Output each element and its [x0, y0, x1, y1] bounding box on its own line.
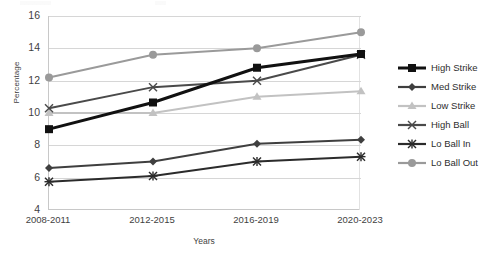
- legend-marker-lo-ball-out-icon: [398, 156, 426, 170]
- legend-item-low-strike[interactable]: Low Strike: [398, 96, 493, 115]
- point-high-strike: [45, 125, 53, 133]
- x-tick-2016-2019: 2016-2019: [211, 214, 301, 225]
- point-high-strike: [149, 98, 157, 106]
- legend-marker-low-strike-icon: [398, 99, 426, 113]
- x-tick-2008-2011: 2008-2011: [3, 214, 93, 225]
- legend-marker-lo-ball-in-icon: [398, 137, 426, 151]
- legend-item-lo-ball-in[interactable]: Lo Ball In: [398, 134, 493, 153]
- point-lo-ball-out: [357, 28, 365, 36]
- point-med-strike: [253, 140, 261, 148]
- cropped-title-artifact: [20, 1, 280, 5]
- line-high-ball: [49, 55, 361, 108]
- point-high-strike: [357, 50, 365, 58]
- point-med-strike: [45, 164, 53, 172]
- y-tick-6: 6: [14, 171, 40, 183]
- line-high-strike: [49, 54, 361, 129]
- point-lo-ball-out: [45, 73, 53, 81]
- point-lo-ball-out: [253, 44, 261, 52]
- line-lo-ball-out: [49, 32, 361, 77]
- line-lo-ball-in: [49, 157, 361, 182]
- y-tick-14: 14: [14, 41, 40, 53]
- y-tick-8: 8: [14, 138, 40, 150]
- legend-item-lo-ball-out[interactable]: Lo Ball Out: [398, 153, 493, 172]
- legend: High StrikeMed StrikeLow StrikeHigh Ball…: [398, 58, 493, 172]
- point-med-strike: [149, 158, 157, 166]
- legend-label-low-strike: Low Strike: [431, 100, 475, 111]
- legend-item-med-strike[interactable]: Med Strike: [398, 77, 493, 96]
- legend-marker-high-strike-icon: [398, 61, 426, 75]
- point-lo-ball-out: [149, 51, 157, 59]
- legend-label-lo-ball-in: Lo Ball In: [431, 138, 471, 149]
- legend-label-lo-ball-out: Lo Ball Out: [431, 157, 478, 168]
- point-high-strike: [253, 64, 261, 72]
- y-tick-12: 12: [14, 74, 40, 86]
- line-med-strike: [49, 140, 361, 168]
- x-tick-2020-2023: 2020-2023: [315, 214, 405, 225]
- line-chart: Percentage 46810121416 2008-20112012-201…: [0, 0, 493, 255]
- legend-label-high-strike: High Strike: [431, 62, 477, 73]
- y-tick-10: 10: [14, 106, 40, 118]
- line-low-strike: [49, 91, 361, 113]
- point-med-strike: [357, 136, 365, 144]
- legend-marker-high-ball-icon: [398, 118, 426, 132]
- y-tick-16: 16: [14, 9, 40, 21]
- x-axis-title: Years: [48, 236, 360, 246]
- legend-marker-med-strike-icon: [398, 80, 426, 94]
- legend-item-high-strike[interactable]: High Strike: [398, 58, 493, 77]
- legend-item-high-ball[interactable]: High Ball: [398, 115, 493, 134]
- legend-label-high-ball: High Ball: [431, 119, 469, 130]
- legend-label-med-strike: Med Strike: [431, 81, 476, 92]
- x-tick-2012-2015: 2012-2015: [107, 214, 197, 225]
- plot-area: [48, 16, 360, 210]
- series-lines: [49, 16, 361, 210]
